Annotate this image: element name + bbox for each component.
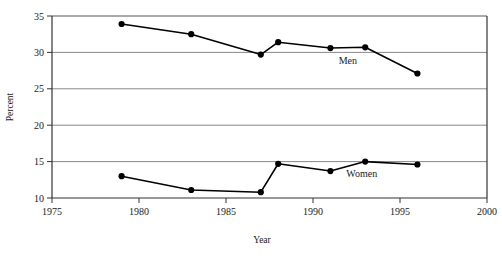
y-tick-label-25: 25 [34, 83, 44, 94]
data-point-women-1987 [258, 189, 264, 195]
y-tick-label-15: 15 [34, 156, 44, 167]
x-tick-label-1995: 1995 [390, 206, 410, 217]
x-tick-label-1975: 1975 [42, 206, 62, 217]
line-chart: 101520253035 197519801985199019952000 Me… [0, 0, 502, 256]
plot-background [52, 16, 487, 198]
data-point-women-1993 [362, 159, 368, 165]
data-point-men-1993 [362, 44, 368, 50]
data-point-men-1987 [258, 51, 264, 57]
x-tick-label-1985: 1985 [216, 206, 236, 217]
data-point-women-1979 [119, 173, 125, 179]
y-axis-title: Percent [5, 92, 15, 121]
data-point-men-1988 [275, 39, 281, 45]
y-tick-label-10: 10 [34, 193, 44, 204]
data-point-women-1996 [414, 161, 420, 167]
data-point-women-1988 [275, 161, 281, 167]
x-axis-title: Year [253, 235, 271, 245]
data-point-men-1991 [327, 45, 333, 51]
data-point-women-1991 [327, 168, 333, 174]
x-tick-label-1990: 1990 [303, 206, 323, 217]
x-axis-ticks: 197519801985199019952000 [42, 198, 497, 217]
data-point-women-1983 [188, 187, 194, 193]
data-point-men-1983 [188, 31, 194, 37]
x-tick-label-2000: 2000 [477, 206, 497, 217]
y-tick-label-20: 20 [34, 120, 44, 131]
y-tick-label-30: 30 [34, 47, 44, 58]
y-tick-label-35: 35 [34, 11, 44, 22]
x-tick-label-1980: 1980 [129, 206, 149, 217]
data-point-men-1979 [119, 21, 125, 27]
series-annotation-women: Women [346, 168, 377, 179]
data-point-men-1996 [414, 70, 420, 76]
y-axis-ticks: 101520253035 [34, 11, 52, 204]
series-annotation-men: Men [339, 55, 357, 66]
chart-canvas: 101520253035 197519801985199019952000 Me… [0, 0, 502, 256]
